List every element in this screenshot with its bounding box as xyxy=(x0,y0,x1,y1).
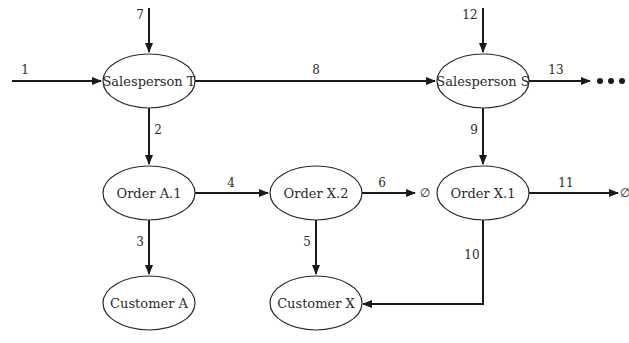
dot xyxy=(608,78,614,84)
node-label: Customer A xyxy=(110,296,188,311)
edge-arrow xyxy=(363,220,483,304)
edge-10: 10 xyxy=(363,220,483,304)
node-sp_s: Salesperson S xyxy=(436,54,529,108)
node-label: Order X.2 xyxy=(284,186,349,201)
edge-2: 2 xyxy=(149,108,162,164)
node-sp_t: Salesperson T xyxy=(102,54,195,108)
edge-8: 8 xyxy=(195,63,435,81)
edge-label: 10 xyxy=(464,248,479,262)
edge-label: 12 xyxy=(462,8,477,22)
empty-set-sink: ∅ xyxy=(620,186,629,200)
edge-6: 6 xyxy=(362,176,415,193)
node-label: Order X.1 xyxy=(451,186,516,201)
node-label: Salesperson T xyxy=(102,74,195,89)
dot xyxy=(597,78,603,84)
edge-label: 8 xyxy=(312,63,320,77)
edge-label: 5 xyxy=(303,235,311,249)
edges: 17812132946113510 xyxy=(12,8,618,304)
edge-4: 4 xyxy=(195,176,268,193)
node-cust_a: Customer A xyxy=(103,276,195,330)
edge-13: 13 xyxy=(529,63,590,81)
edge-label: 1 xyxy=(21,63,29,77)
node-ord_x1: Order X.1 xyxy=(437,166,529,220)
edge-1: 1 xyxy=(12,63,101,81)
empty-set-sink: ∅ xyxy=(420,186,430,200)
edge-11: 11 xyxy=(529,176,618,193)
edge-label: 2 xyxy=(154,123,162,137)
node-label: Salesperson S xyxy=(436,74,529,89)
edge-label: 3 xyxy=(136,235,144,249)
edge-label: 6 xyxy=(378,176,386,190)
dot xyxy=(619,78,625,84)
node-label: Order A.1 xyxy=(116,186,181,201)
edge-label: 11 xyxy=(558,176,573,190)
nodes: Salesperson TSalesperson SOrder A.1Order… xyxy=(102,54,529,330)
edge-3: 3 xyxy=(136,220,149,274)
node-cust_x: Customer X xyxy=(270,276,362,330)
node-label: Customer X xyxy=(277,296,355,311)
edge-label: 9 xyxy=(470,123,478,137)
edge-label: 13 xyxy=(548,63,563,77)
edge-5: 5 xyxy=(303,220,316,274)
edge-label: 4 xyxy=(227,176,235,190)
node-ord_x2: Order X.2 xyxy=(270,166,362,220)
edge-7: 7 xyxy=(136,8,149,52)
edge-12: 12 xyxy=(462,8,483,52)
edge-9: 9 xyxy=(470,108,483,164)
edge-label: 7 xyxy=(136,8,144,22)
ellipsis-continuation-icon xyxy=(597,78,625,84)
node-ord_a1: Order A.1 xyxy=(103,166,195,220)
order-flow-diagram: 17812132946113510 Salesperson TSalespers… xyxy=(0,0,629,343)
